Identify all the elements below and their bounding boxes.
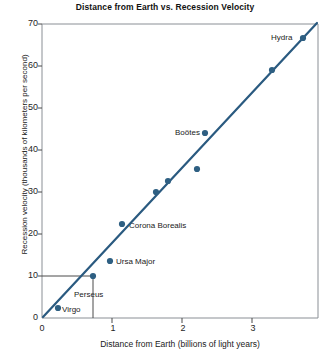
data-point-unlabeled-2 bbox=[165, 178, 171, 184]
y-axis-ticks bbox=[38, 24, 42, 276]
data-point-hydra bbox=[300, 35, 306, 41]
data-point-corona-borealis bbox=[119, 221, 125, 227]
data-point-unlabeled-1 bbox=[153, 189, 159, 195]
data-point-perseus bbox=[90, 273, 96, 279]
data-point-bootes bbox=[202, 130, 208, 136]
data-point-ursa-major bbox=[107, 258, 113, 264]
plot-canvas bbox=[0, 0, 330, 354]
data-point-unlabeled-3 bbox=[194, 166, 200, 172]
data-point-virgo bbox=[55, 305, 61, 311]
data-point-unlabeled-4 bbox=[269, 67, 275, 73]
scatter-chart-figure: Distance from Earth vs. Recession Veloci… bbox=[0, 0, 330, 354]
trend-line bbox=[43, 23, 317, 317]
perseus-guide-lines bbox=[42, 276, 93, 318]
x-axis-ticks bbox=[112, 318, 252, 323]
